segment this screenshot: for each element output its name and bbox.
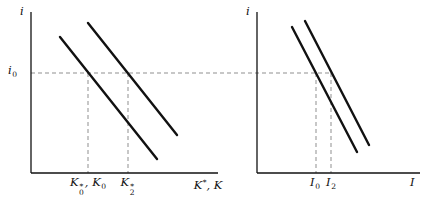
k0-tick-label: K*0, K0 — [70, 176, 106, 195]
capital-demand-curve-2 — [88, 23, 177, 135]
invest-tick1-base: I — [310, 175, 315, 189]
k0-supsub: *0 — [79, 184, 84, 195]
invest-tick2-base: I — [326, 175, 331, 189]
two-panel-interest-rate-diagram: i i0 K*0, K0 K*2 K*, K i I0 I2 I — [0, 0, 435, 202]
diagram-svg — [0, 0, 435, 202]
k0-base: K — [70, 175, 79, 189]
i2-investment-tick-label: I2 — [326, 176, 336, 193]
investment-curve-2 — [305, 21, 369, 145]
k2-supsub: *2 — [130, 184, 135, 195]
left-x-base: K — [194, 178, 203, 192]
right-x-axis-label: I — [410, 176, 415, 189]
k0-sub: 0 — [79, 190, 84, 196]
investment-curve-1 — [292, 27, 357, 152]
right-y-axis-label: i — [246, 5, 250, 18]
left-x-tail: , K — [206, 178, 222, 192]
k2-tick-label: K*2 — [121, 176, 136, 195]
k0-tail: , K — [85, 175, 101, 189]
invest-tick1-sub: 0 — [315, 182, 320, 191]
k0-tail-sub: 0 — [101, 182, 106, 191]
k2-base: K — [121, 175, 130, 189]
i0-investment-tick-label: I0 — [310, 176, 320, 193]
left-x-axis-label: K*, K — [194, 176, 223, 192]
capital-demand-curve-1 — [60, 37, 157, 159]
i0-sub: 0 — [12, 70, 17, 79]
k2-sub: 2 — [130, 190, 135, 196]
i0-label: i0 — [8, 64, 17, 81]
left-y-axis-label: i — [20, 5, 24, 18]
invest-tick2-sub: 2 — [331, 182, 336, 191]
